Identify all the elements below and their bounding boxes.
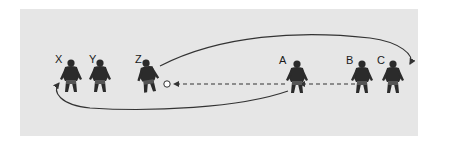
player-figure-icon [351,60,373,93]
player-figure-icon [382,60,404,93]
player-label: Y [89,53,97,65]
ball-icon [164,81,170,87]
player-label: A [279,54,287,66]
player-b: B [346,54,373,93]
player-label: B [346,54,353,66]
run-path-a-to-x [57,83,288,109]
drill-diagram: X Y Z A B C [0,0,458,144]
player-label: Z [135,53,142,65]
player-x: X [55,53,82,92]
player-label: C [377,54,385,66]
player-a: A [279,54,308,93]
player-label: X [55,53,63,65]
player-figure-icon [286,60,308,93]
player-figure-icon [60,59,82,92]
player-y: Y [89,53,111,92]
player-z: Z [135,53,161,93]
player-c: C [377,54,404,93]
